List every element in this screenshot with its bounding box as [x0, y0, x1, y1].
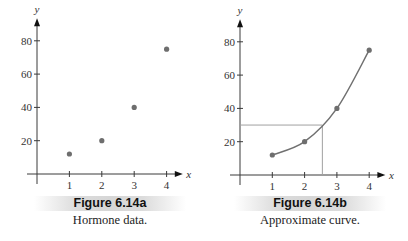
x-tick-label: 4: [164, 179, 170, 191]
figure-caption-title: Figure 6.14a: [34, 196, 186, 211]
y-axis-arrow-icon: [34, 18, 40, 26]
figure-caption-subtitle: Hormone data.: [34, 213, 186, 227]
x-axis-arrow-icon: [175, 171, 183, 177]
figure-6-14a: yx204060801234 Figure 6.14a Hormone data…: [0, 0, 204, 241]
y-tick-label: 20: [224, 136, 236, 148]
x-axis-label: x: [388, 169, 394, 181]
figure-caption-title: Figure 6.14b: [234, 196, 386, 211]
x-axis-label: x: [185, 168, 191, 180]
x-tick-label: 4: [366, 180, 372, 192]
x-tick-label: 1: [67, 179, 73, 191]
approximate-curve-line: [272, 50, 369, 155]
y-tick-label: 60: [21, 68, 33, 80]
y-axis-label: y: [237, 4, 243, 16]
y-tick-label: 80: [224, 36, 236, 48]
y-axis-arrow-icon: [237, 19, 243, 27]
data-point: [99, 138, 104, 143]
x-tick-label: 3: [334, 180, 340, 192]
y-tick-label: 60: [224, 69, 236, 81]
data-point: [67, 151, 72, 156]
figure-caption-subtitle: Approximate curve.: [234, 213, 386, 227]
data-point: [132, 105, 137, 110]
y-tick-label: 40: [224, 102, 236, 114]
y-tick-label: 40: [21, 101, 33, 113]
y-tick-label: 80: [21, 35, 33, 47]
data-point: [302, 139, 307, 144]
data-point: [334, 106, 339, 111]
figure-6-14b: yx204060801234 Figure 6.14b Approximate …: [204, 0, 408, 241]
x-tick-label: 2: [302, 180, 308, 192]
y-tick-label: 20: [21, 135, 33, 147]
data-point: [367, 48, 372, 53]
x-tick-label: 3: [131, 179, 137, 191]
x-tick-label: 2: [99, 179, 105, 191]
x-tick-label: 1: [270, 180, 276, 192]
data-point: [164, 47, 169, 52]
x-axis-arrow-icon: [377, 172, 385, 178]
y-axis-label: y: [34, 3, 40, 15]
data-point: [270, 152, 275, 157]
